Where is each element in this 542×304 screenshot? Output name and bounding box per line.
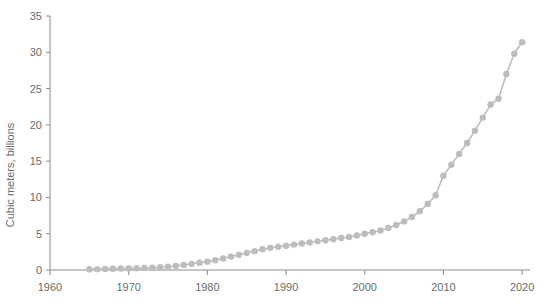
x-tick-label: 2010 bbox=[431, 281, 455, 293]
data-point-marker bbox=[519, 39, 525, 45]
data-point-marker bbox=[432, 192, 438, 198]
data-point-marker bbox=[377, 227, 383, 233]
data-point-marker bbox=[133, 265, 139, 271]
data-point-marker bbox=[228, 253, 234, 259]
data-point-marker bbox=[417, 208, 423, 214]
data-point-marker bbox=[480, 114, 486, 120]
data-point-marker bbox=[338, 235, 344, 241]
y-axis-title: Cubic meters, billions bbox=[4, 122, 16, 227]
data-point-marker bbox=[511, 51, 517, 57]
data-point-marker bbox=[322, 237, 328, 243]
y-tick-label: 5 bbox=[36, 228, 42, 240]
data-point-marker bbox=[314, 238, 320, 244]
data-point-marker bbox=[472, 127, 478, 133]
data-point-marker bbox=[236, 252, 242, 258]
y-tick-label: 10 bbox=[30, 191, 42, 203]
y-tick-label: 0 bbox=[36, 264, 42, 276]
y-tick-label: 25 bbox=[30, 83, 42, 95]
y-tick-label: 35 bbox=[30, 10, 42, 22]
data-point-marker bbox=[275, 244, 281, 250]
data-point-marker bbox=[110, 265, 116, 271]
data-point-marker bbox=[149, 264, 155, 270]
data-point-marker bbox=[259, 246, 265, 252]
data-point-marker bbox=[425, 201, 431, 207]
x-tick-label: 1960 bbox=[38, 281, 62, 293]
data-point-marker bbox=[448, 162, 454, 168]
data-point-marker bbox=[330, 236, 336, 242]
data-point-marker bbox=[165, 264, 171, 270]
data-point-marker bbox=[157, 264, 163, 270]
line-chart: 05101520253035 1960197019801990200020102… bbox=[0, 0, 542, 304]
data-point-marker bbox=[409, 214, 415, 220]
data-point-marker bbox=[196, 260, 202, 266]
data-point-marker bbox=[102, 266, 108, 272]
data-point-marker bbox=[393, 222, 399, 228]
data-point-marker bbox=[401, 218, 407, 224]
data-point-marker bbox=[173, 263, 179, 269]
data-point-marker bbox=[503, 71, 509, 77]
data-point-marker bbox=[94, 266, 100, 272]
x-tick-label: 1970 bbox=[116, 281, 140, 293]
data-point-marker bbox=[362, 231, 368, 237]
data-point-marker bbox=[125, 265, 131, 271]
data-point-marker bbox=[188, 261, 194, 267]
data-point-marker bbox=[220, 255, 226, 261]
x-tick-label: 2020 bbox=[510, 281, 534, 293]
data-point-marker bbox=[346, 234, 352, 240]
data-point-marker bbox=[251, 248, 257, 254]
data-point-marker bbox=[86, 266, 92, 272]
data-point-marker bbox=[354, 232, 360, 238]
data-point-marker bbox=[464, 140, 470, 146]
x-tick-label: 1980 bbox=[195, 281, 219, 293]
data-point-marker bbox=[440, 172, 446, 178]
data-point-marker bbox=[369, 229, 375, 235]
y-tick-label: 20 bbox=[30, 119, 42, 131]
x-tick-label: 1990 bbox=[274, 281, 298, 293]
data-point-marker bbox=[244, 250, 250, 256]
x-tick-label: 2000 bbox=[353, 281, 377, 293]
data-point-marker bbox=[181, 262, 187, 268]
y-tick-label: 30 bbox=[30, 46, 42, 58]
data-point-marker bbox=[299, 240, 305, 246]
chart-container: 05101520253035 1960197019801990200020102… bbox=[0, 0, 542, 304]
data-point-marker bbox=[141, 265, 147, 271]
data-point-marker bbox=[204, 258, 210, 264]
data-point-marker bbox=[118, 265, 124, 271]
data-point-marker bbox=[267, 245, 273, 251]
y-tick-label: 15 bbox=[30, 155, 42, 167]
data-point-marker bbox=[306, 239, 312, 245]
data-point-marker bbox=[487, 101, 493, 107]
data-point-marker bbox=[385, 225, 391, 231]
data-point-marker bbox=[212, 257, 218, 263]
data-point-marker bbox=[495, 96, 501, 102]
data-point-marker bbox=[456, 151, 462, 157]
data-point-marker bbox=[291, 241, 297, 247]
data-point-marker bbox=[283, 242, 289, 248]
